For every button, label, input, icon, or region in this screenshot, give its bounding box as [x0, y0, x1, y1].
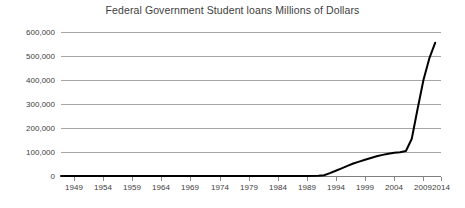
data-series-student-loans — [61, 43, 435, 176]
line-chart: Federal Government Student loans Million… — [0, 0, 465, 208]
series-layer — [0, 0, 465, 208]
